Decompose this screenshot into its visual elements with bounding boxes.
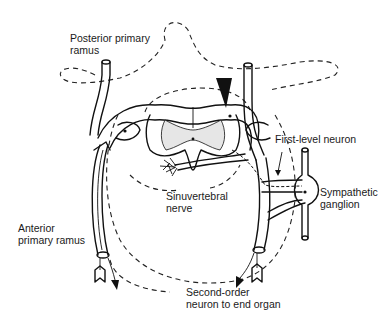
label-sinuvertebral-nerve: Sinuvertebral nerve	[166, 190, 228, 214]
first-level-neuron-pointer	[278, 152, 282, 172]
label-first-level-neuron: First-level neuron	[275, 133, 356, 145]
label-posterior-primary-ramus: Posterior primary ramus	[70, 32, 150, 56]
spinal-nerve-diagram: Posterior primary ramus First-level neur…	[0, 0, 386, 317]
label-second-order-neuron: Second-order neuron to end organ	[186, 286, 281, 310]
label-anterior-primary-ramus: Anterior primary ramus	[18, 222, 85, 246]
sympathetic-ganglion-shape	[295, 148, 319, 240]
label-sympathetic-ganglion: Sympathetic ganglion	[320, 186, 378, 210]
arrow-path-dashed	[110, 260, 170, 292]
diagram-artwork	[0, 0, 386, 317]
posterior-ramus-right	[244, 63, 264, 160]
anterior-ramus-left	[92, 142, 119, 290]
anterior-ramus-right	[236, 158, 270, 288]
posterior-arrowhead-icon	[216, 78, 232, 108]
arrowhead-left-icon	[111, 280, 119, 290]
